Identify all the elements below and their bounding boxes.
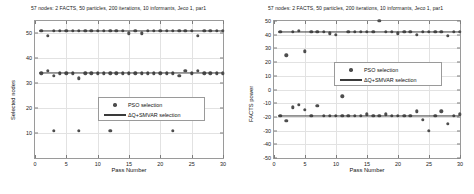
x-tick-mark bbox=[460, 21, 461, 24]
y-axis-label-right: FACTS power bbox=[248, 86, 254, 122]
x-tick-mark bbox=[367, 155, 368, 158]
data-point bbox=[340, 95, 343, 98]
data-point bbox=[221, 29, 224, 32]
data-point bbox=[52, 129, 55, 132]
y-tick-mark bbox=[457, 48, 460, 49]
trend-line bbox=[39, 73, 222, 74]
data-point bbox=[303, 49, 306, 52]
data-point bbox=[458, 112, 461, 115]
y-axis-label-left: Selected nodes bbox=[10, 80, 16, 120]
grid-line-horizontal bbox=[274, 103, 460, 104]
y-tick-mark bbox=[220, 83, 223, 84]
data-point bbox=[177, 74, 180, 77]
x-tick-mark bbox=[398, 155, 399, 158]
legend-label-dq: ΔQ+SMVAR selection bbox=[364, 77, 416, 83]
legend-line-icon bbox=[338, 79, 364, 80]
legend-line-icon bbox=[102, 114, 128, 115]
plot-area-right: 051015202530-50-40-30-20-1001020304050 bbox=[273, 20, 461, 159]
y-tick-mark bbox=[35, 108, 38, 109]
legend-label-pso: PSO selection bbox=[128, 102, 162, 108]
data-point bbox=[77, 77, 80, 80]
data-point bbox=[378, 19, 381, 22]
data-point bbox=[46, 34, 49, 37]
grid-line-horizontal bbox=[274, 90, 460, 91]
data-point bbox=[285, 119, 288, 122]
y-tick-mark bbox=[274, 34, 277, 35]
y-tick-label: 20 bbox=[265, 59, 271, 65]
data-point bbox=[285, 54, 288, 57]
y-tick-mark bbox=[35, 33, 38, 34]
legend-right: PSO selection ΔQ+SMVAR selection bbox=[334, 62, 442, 86]
data-point bbox=[171, 129, 174, 132]
grid-line-vertical bbox=[129, 21, 130, 158]
legend-entry-pso: PSO selection bbox=[338, 65, 438, 75]
y-tick-mark bbox=[274, 158, 277, 159]
trend-line bbox=[278, 115, 459, 116]
x-tick-mark bbox=[429, 21, 430, 24]
grid-line-vertical bbox=[98, 21, 99, 158]
data-point bbox=[196, 34, 199, 37]
y-tick-label: -40 bbox=[263, 141, 271, 147]
y-tick-mark bbox=[274, 75, 277, 76]
data-point bbox=[446, 122, 449, 125]
legend-marker-icon bbox=[102, 103, 128, 106]
y-tick-mark bbox=[274, 62, 277, 63]
x-tick-mark bbox=[336, 21, 337, 24]
y-tick-mark bbox=[457, 144, 460, 145]
x-tick-mark bbox=[66, 21, 67, 24]
y-tick-mark bbox=[274, 21, 277, 22]
y-tick-label: 50 bbox=[26, 30, 32, 36]
y-tick-mark bbox=[457, 116, 460, 117]
grid-line-horizontal bbox=[35, 58, 223, 59]
x-tick-mark bbox=[192, 21, 193, 24]
x-tick-mark bbox=[429, 155, 430, 158]
y-tick-mark bbox=[220, 133, 223, 134]
y-tick-label: 0 bbox=[268, 87, 271, 93]
x-tick-mark bbox=[336, 155, 337, 158]
data-point bbox=[415, 33, 418, 36]
y-tick-mark bbox=[457, 34, 460, 35]
x-tick-mark bbox=[223, 155, 224, 158]
data-point bbox=[458, 30, 461, 33]
legend-label-pso: PSO selection bbox=[364, 67, 398, 73]
grid-line-horizontal bbox=[274, 35, 460, 36]
y-tick-mark bbox=[457, 158, 460, 159]
grid-line-horizontal bbox=[274, 48, 460, 49]
y-tick-label: 30 bbox=[265, 45, 271, 51]
legend-label-dq: ΔQ+SMVAR selection bbox=[128, 112, 180, 118]
data-point bbox=[415, 110, 418, 113]
data-point bbox=[334, 33, 337, 36]
y-tick-label: 40 bbox=[26, 55, 32, 61]
legend-left: PSO selection ΔQ+SMVAR selection bbox=[98, 97, 205, 121]
figure-container: 57 nodes: 2 FACTS, 50 particles, 200 ite… bbox=[0, 0, 474, 194]
legend-entry-pso: PSO selection bbox=[102, 100, 201, 110]
y-tick-mark bbox=[220, 58, 223, 59]
x-tick-mark bbox=[160, 21, 161, 24]
x-tick-mark bbox=[192, 155, 193, 158]
y-tick-mark bbox=[457, 89, 460, 90]
data-point bbox=[77, 129, 80, 132]
y-tick-label: 10 bbox=[265, 73, 271, 79]
y-tick-mark bbox=[220, 108, 223, 109]
x-axis-label-left: Pass Number bbox=[34, 167, 224, 173]
y-tick-label: 40 bbox=[265, 32, 271, 38]
data-point bbox=[140, 32, 143, 35]
y-tick-mark bbox=[220, 33, 223, 34]
y-tick-label: 20 bbox=[26, 105, 32, 111]
x-tick-mark bbox=[129, 155, 130, 158]
grid-line-horizontal bbox=[274, 131, 460, 132]
data-point bbox=[303, 108, 306, 111]
y-tick-label: 30 bbox=[26, 80, 32, 86]
y-tick-mark bbox=[457, 103, 460, 104]
y-tick-mark bbox=[274, 89, 277, 90]
data-point bbox=[427, 129, 430, 132]
grid-line-horizontal bbox=[274, 144, 460, 145]
trend-line bbox=[278, 31, 459, 32]
x-tick-mark bbox=[367, 21, 368, 24]
trend-line bbox=[39, 30, 222, 31]
y-tick-mark bbox=[35, 133, 38, 134]
x-tick-mark bbox=[98, 155, 99, 158]
y-tick-mark bbox=[457, 130, 460, 131]
x-tick-mark bbox=[223, 21, 224, 24]
legend-entry-dq: ΔQ+SMVAR selection bbox=[338, 75, 438, 85]
